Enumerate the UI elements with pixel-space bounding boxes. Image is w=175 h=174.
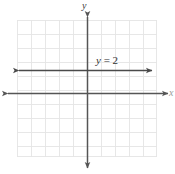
- line-equation-label: y = 2: [96, 55, 118, 66]
- y-axis-label: y: [82, 1, 86, 11]
- equation-operator: =: [101, 54, 113, 66]
- graph-figure: y x y = 2: [0, 0, 175, 174]
- equation-value: 2: [113, 54, 119, 66]
- coordinate-plane-svg: [0, 0, 175, 174]
- x-axis-label: x: [169, 88, 173, 98]
